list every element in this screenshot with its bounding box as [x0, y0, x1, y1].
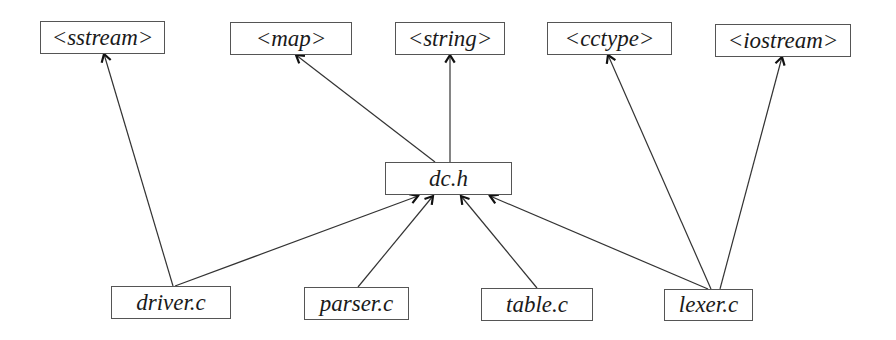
edge-lexer-to-iostream — [720, 57, 785, 289]
node-driver: driver.c — [111, 286, 231, 319]
edge-table-to-dch — [461, 196, 537, 288]
node-table: table.c — [481, 288, 593, 321]
node-parser: parser.c — [304, 287, 409, 320]
edge-driver-to-sstream — [102, 54, 173, 286]
edge-parser-to-dch — [358, 196, 433, 287]
node-label: driver.c — [136, 290, 206, 316]
node-label: <sstream> — [52, 25, 154, 51]
node-label: <string> — [408, 26, 493, 52]
edge-driver-to-dch — [175, 194, 418, 286]
node-label: table.c — [506, 292, 568, 318]
edge-dch-to-map — [296, 55, 435, 162]
arrowhead-icon — [296, 55, 305, 63]
node-label: dc.h — [429, 166, 468, 192]
node-label: <cctype> — [565, 26, 655, 52]
node-label: parser.c — [320, 291, 393, 317]
node-dch: dc.h — [385, 162, 512, 195]
edge-dch-to-string — [445, 55, 454, 162]
node-string: <string> — [395, 22, 505, 55]
edge-lexer-to-cctype — [607, 55, 711, 289]
node-label: lexer.c — [679, 292, 738, 318]
node-cctype: <cctype> — [547, 22, 672, 55]
node-sstream: <sstream> — [40, 21, 165, 54]
node-label: <map> — [256, 26, 327, 52]
node-label: <iostream> — [728, 28, 839, 54]
node-lexer: lexer.c — [664, 289, 753, 321]
node-map: <map> — [230, 22, 352, 55]
node-iostream: <iostream> — [715, 24, 851, 57]
